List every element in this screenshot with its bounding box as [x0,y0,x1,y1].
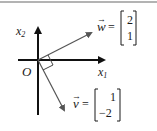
vector-v-label: v → = 1 −2 [72,89,120,121]
svg-text:2: 2 [127,13,133,27]
left-bracket [95,89,98,121]
vector-v-arrow [38,60,64,110]
origin-label: O [22,64,32,79]
x1-axis-label: x1 [97,65,107,80]
svg-text:→: → [97,14,106,24]
right-bracket [117,89,120,121]
x2-axis-label: x2 [15,24,25,39]
svg-text:=: = [82,97,89,111]
svg-text:1: 1 [127,29,133,43]
vector-w-arrow [38,33,91,60]
svg-text:→: → [72,91,81,101]
left-bracket [121,11,124,45]
svg-text:=: = [108,20,115,34]
right-bracket [133,11,136,45]
orthogonal-vectors-diagram: x2 x1 O w → = 2 1 v → = 1 −2 [0,0,157,131]
vector-w-label: w → = 2 1 [97,11,136,45]
svg-text:1: 1 [110,90,116,104]
svg-text:−2: −2 [99,106,112,120]
